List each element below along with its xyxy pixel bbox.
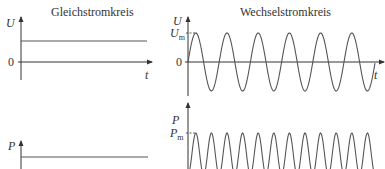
ac-power-axis-label: P bbox=[172, 114, 179, 126]
ac-power-peak-label: Pm bbox=[170, 127, 184, 139]
ac-voltage-peak-label: Um bbox=[170, 27, 185, 39]
ac-um-main: U bbox=[170, 26, 179, 40]
ac-pm-sub: m bbox=[177, 133, 183, 142]
diagram-canvas bbox=[0, 0, 385, 169]
ac-zero-label: 0 bbox=[176, 56, 182, 68]
dc-title: Gleichstromkreis bbox=[51, 6, 134, 18]
dc-zero-label: 0 bbox=[8, 56, 14, 68]
dc-power-plot bbox=[21, 141, 148, 169]
dc-voltage-plot bbox=[18, 17, 152, 80]
ac-power-plot bbox=[186, 103, 376, 169]
ac-voltage-plot bbox=[185, 17, 384, 96]
dc-time-axis-label: t bbox=[145, 69, 148, 81]
dc-voltage-axis-label: U bbox=[6, 17, 15, 29]
ac-um-sub: m bbox=[179, 33, 185, 42]
ac-title: Wechselstromkreis bbox=[240, 6, 331, 18]
ac-time-axis-label: t bbox=[374, 69, 377, 81]
dc-power-axis-label: P bbox=[8, 140, 15, 152]
ac-power-curve bbox=[188, 133, 376, 169]
